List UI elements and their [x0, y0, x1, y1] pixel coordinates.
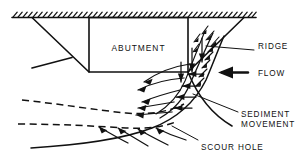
flow-label: FLOW: [258, 69, 285, 78]
ground-hatching: [13, 12, 256, 17]
leader-scour-hole: [172, 126, 198, 140]
embankment-slope: [32, 18, 89, 73]
abutment-box: ABUTMENT: [89, 18, 188, 73]
sediment-movement-label-line2: MOVEMENT: [241, 120, 295, 129]
ridge-label: RIDGE: [258, 42, 288, 51]
abutment-label: ABUTMENT: [111, 43, 165, 53]
leader-sediment: [193, 94, 238, 112]
sediment-movement-label-line1: SEDIMENT: [241, 110, 290, 119]
abutment-scour-diagram: ABUTMENT: [0, 0, 297, 163]
contour-upper: [22, 100, 184, 114]
scour-hole-label: SCOUR HOLE: [201, 143, 264, 152]
flow-arrow: [218, 66, 248, 78]
diagram-canvas: ABUTMENT: [0, 0, 297, 163]
